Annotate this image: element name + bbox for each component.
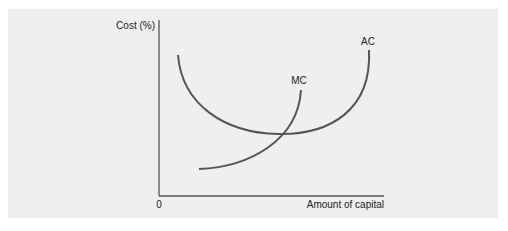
y-axis-label: Cost (%) bbox=[116, 20, 155, 31]
ac-label: AC bbox=[361, 36, 375, 47]
origin-label: 0 bbox=[156, 199, 162, 210]
x-axis-label: Amount of capital bbox=[307, 199, 384, 210]
mc-curve bbox=[199, 90, 301, 169]
ac-curve bbox=[178, 50, 369, 134]
mc-label: MC bbox=[291, 75, 307, 86]
cost-chart: Cost (%) 0 Amount of capital AC MC bbox=[0, 0, 508, 231]
